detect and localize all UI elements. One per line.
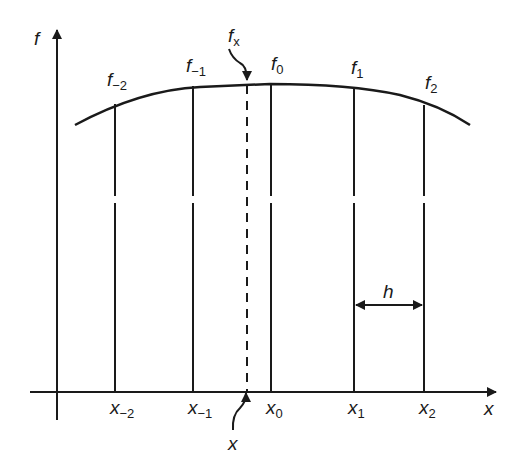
label-f2: f2	[425, 72, 438, 96]
label-x-minus1: x−1	[187, 397, 212, 421]
f-axis-label: f	[34, 28, 41, 49]
label-x-minus2: x−2	[109, 397, 134, 421]
interpolation-diagram: f x f−2 f−1 f0 f1 f2 fx x−2 x−1 x0 x1 x2…	[0, 0, 526, 473]
label-h: h	[383, 281, 394, 302]
label-f0: f0	[271, 53, 284, 77]
function-curve	[75, 84, 470, 125]
label-f-minus1: f−1	[186, 55, 206, 79]
x-axis-label: x	[483, 398, 495, 419]
x-pointer	[233, 393, 246, 430]
label-x2: x2	[418, 397, 436, 421]
label-fx: fx	[228, 25, 240, 49]
label-x0: x0	[265, 397, 283, 421]
label-f-minus2: f−2	[107, 69, 127, 93]
node-lines	[115, 84, 424, 392]
label-f1: f1	[351, 57, 364, 81]
fx-pointer	[229, 49, 247, 80]
label-x-interp: x	[227, 433, 239, 454]
label-x1: x1	[347, 397, 365, 421]
